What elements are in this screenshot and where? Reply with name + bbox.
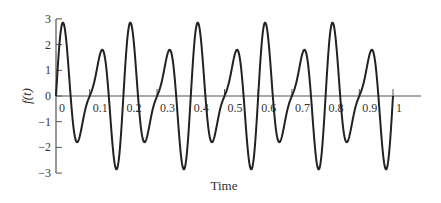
x-axis-title: Time [211, 178, 238, 193]
x-tick-label: 0.5 [228, 101, 243, 115]
y-tick-label: −2 [38, 140, 51, 154]
x-tick-label: 0.9 [362, 101, 377, 115]
y-tick-label: 2 [45, 38, 51, 52]
x-tick-label: 1 [396, 101, 402, 115]
y-tick-label: 0 [45, 89, 51, 103]
y-tick-label: −3 [38, 166, 51, 180]
x-tick-label: 0.3 [160, 101, 175, 115]
x-tick-label: 0.7 [295, 101, 310, 115]
y-tick-label: 1 [45, 63, 51, 77]
y-tick-label: −1 [38, 115, 51, 129]
chart: 3210−1−2−3 00.10.20.30.40.50.60.70.80.91… [0, 0, 441, 203]
x-tick-label: 0.1 [93, 101, 108, 115]
y-tick-label: 3 [45, 12, 51, 26]
y-axis-title: f(t) [19, 88, 34, 104]
x-tick-label: 0 [59, 101, 65, 115]
